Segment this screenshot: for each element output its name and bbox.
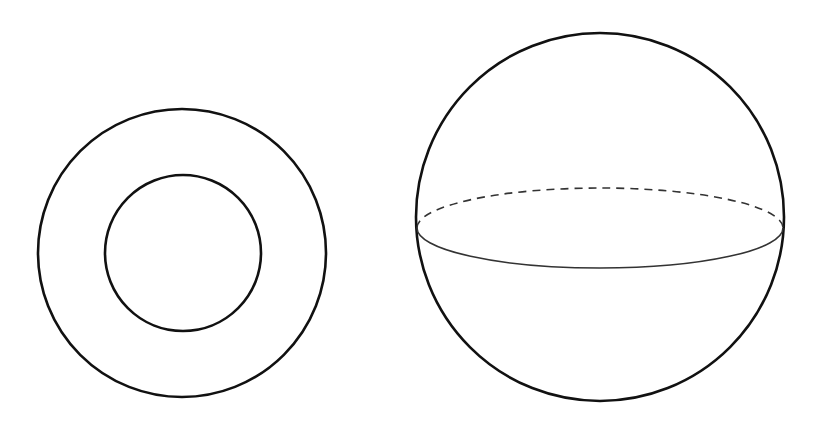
sphere-equator-back-dashed xyxy=(417,188,783,228)
sphere-figure xyxy=(416,33,784,401)
sphere-equator-front-solid xyxy=(417,228,783,268)
annulus-outer-circle xyxy=(38,109,326,397)
annulus-inner-circle xyxy=(105,175,261,331)
annulus-figure xyxy=(38,109,326,397)
diagram-canvas xyxy=(0,0,825,430)
sphere-outline xyxy=(416,33,784,401)
